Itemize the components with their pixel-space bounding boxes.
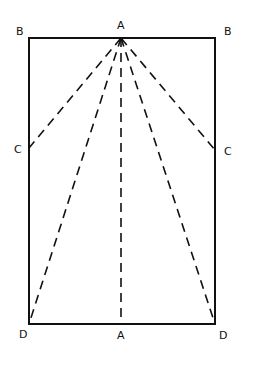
dashed-line-a-to-right-c: [121, 38, 215, 150]
label-top-left: B: [16, 25, 24, 38]
rectangle-fold-diagram: B B A C C D D A: [0, 0, 253, 366]
label-bottom-left: D: [19, 328, 27, 341]
dashed-line-a-to-left-c: [29, 38, 121, 148]
label-mid-left: C: [14, 143, 22, 156]
label-mid-right: C: [224, 145, 232, 158]
label-bottom-right: D: [219, 329, 227, 342]
label-top-right: B: [224, 25, 232, 38]
label-bottom-center: A: [117, 329, 125, 342]
dashed-line-a-to-right-d: [121, 38, 215, 324]
label-top-center: A: [117, 19, 125, 32]
apex-point: [119, 37, 123, 41]
dashed-line-a-to-left-d: [29, 38, 121, 324]
outer-rectangle: [29, 38, 215, 324]
